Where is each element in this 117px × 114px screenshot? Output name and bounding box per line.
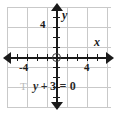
x-axis-tick bbox=[37, 54, 38, 61]
x-axis-tick bbox=[67, 54, 68, 61]
x-axis-tick bbox=[87, 54, 88, 61]
coordinate-plane-figure: y x 4 -4 4 T y+3=0 bbox=[0, 0, 117, 114]
x-axis-right-arrow-icon bbox=[106, 52, 114, 64]
equation-operator: + bbox=[41, 79, 48, 93]
ghost-artifact-text: T bbox=[20, 80, 27, 92]
equation-annotation: y+3=0 bbox=[33, 79, 76, 94]
y-axis-tick bbox=[53, 47, 60, 48]
x-axis-tick-label-4: 4 bbox=[84, 62, 90, 73]
x-axis-tick bbox=[47, 54, 48, 61]
equation-equals: = bbox=[59, 79, 66, 93]
y-axis-tick bbox=[53, 97, 60, 98]
y-axis-tick bbox=[53, 67, 60, 68]
y-axis-tick bbox=[53, 27, 60, 28]
x-axis-tick bbox=[97, 54, 98, 61]
y-axis-tick bbox=[53, 17, 60, 18]
y-axis-down-arrow-icon bbox=[51, 102, 63, 110]
equation-variable: y bbox=[33, 79, 39, 93]
x-axis-tick bbox=[27, 54, 28, 61]
y-axis-tick bbox=[53, 37, 60, 38]
y-axis-tick-label-4: 4 bbox=[40, 19, 46, 30]
y-axis-tick bbox=[53, 77, 60, 78]
x-axis-left-arrow-icon bbox=[3, 52, 11, 64]
y-axis-label: y bbox=[62, 9, 67, 21]
x-axis-tick bbox=[77, 54, 78, 61]
origin-point-marker bbox=[52, 53, 61, 62]
x-axis-tick bbox=[17, 54, 18, 61]
x-axis-tick-label-neg4: -4 bbox=[19, 62, 28, 73]
x-axis-label: x bbox=[94, 36, 100, 48]
equation-rhs: 0 bbox=[70, 79, 76, 93]
equation-constant: 3 bbox=[50, 79, 56, 93]
